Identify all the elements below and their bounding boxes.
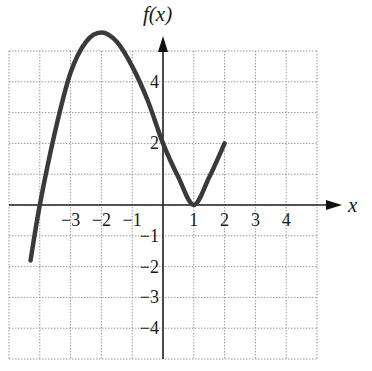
y-tick-label: 4 [150,72,159,92]
axes [9,36,342,359]
x-tick-label: 2 [220,210,229,230]
x-tick-label: 4 [282,210,291,230]
x-tick-label: −3 [61,210,80,230]
y-tick-label: −3 [140,287,159,307]
x-tick-label: 1 [189,210,198,230]
x-tick-label: 3 [251,210,260,230]
y-tick-label: 2 [150,133,159,153]
x-axis-label: x [347,193,358,217]
y-tick-label: −1 [140,226,159,246]
y-tick-label: −4 [140,318,159,338]
y-axis-label: f(x) [143,2,172,26]
x-tick-label: −2 [92,210,111,230]
y-tick-label: −2 [140,257,159,277]
function-graph: −3−2−1123442−1−2−3−4 x f(x) [0,0,372,371]
